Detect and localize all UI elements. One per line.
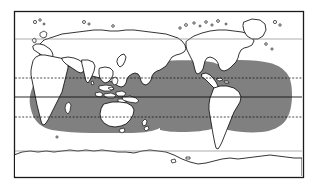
distribution-map-figure — [0, 0, 320, 189]
distribution-range-shading — [30, 59, 292, 133]
coastline-sri-lanka — [91, 81, 94, 85]
world-map-canvas — [0, 0, 320, 189]
